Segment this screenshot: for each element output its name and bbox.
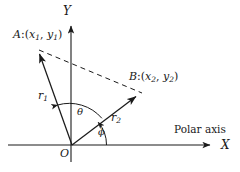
vector-r2	[72, 97, 136, 146]
x-axis-label: X	[221, 139, 230, 151]
angle-phi-label: ϕ	[98, 127, 105, 137]
point-a-separator: :(	[21, 28, 29, 41]
vector-r1-label: r1	[38, 90, 48, 103]
figure-root: Y X O Polar axis A:(x1, y1) B:(x2, y2) r…	[0, 0, 240, 172]
point-a-name: A	[13, 28, 21, 41]
point-a-close: )	[58, 28, 62, 41]
origin-label: O	[60, 148, 69, 159]
point-a-comma: ,	[40, 28, 47, 41]
point-b-label: B:(x2, y2)	[129, 71, 178, 84]
vector-r2-label: r2	[111, 112, 121, 125]
segment-ab-dashed	[39, 50, 142, 93]
polar-axis-label: Polar axis	[174, 124, 226, 135]
point-b-close: )	[174, 70, 178, 83]
diagram-canvas	[0, 0, 240, 172]
y-axis-label: Y	[63, 5, 71, 17]
vector-r1-sub: 1	[43, 94, 48, 103]
vector-r2-sub: 2	[116, 116, 121, 125]
point-a-label: A:(x1, y1)	[13, 29, 62, 42]
angle-theta-label: θ	[77, 107, 83, 117]
point-b-name: B	[129, 70, 137, 83]
point-b-separator: :(	[137, 70, 145, 83]
